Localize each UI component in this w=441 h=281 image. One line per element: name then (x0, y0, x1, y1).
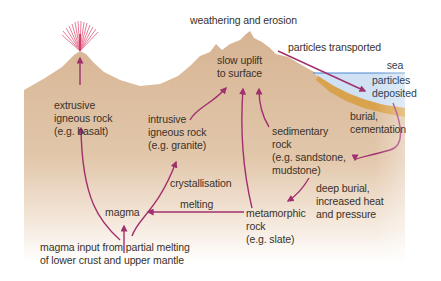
label-intrusive-igneous-rock: intrusive igneous rock (e.g. granite) (148, 113, 206, 152)
label-weathering-erosion: weathering and erosion (190, 14, 297, 27)
label-melting: melting (180, 198, 213, 211)
label-metamorphic-rock: metamorphic rock (e.g. slate) (246, 207, 306, 246)
label-magma-input: magma input from partial melting of lowe… (40, 241, 190, 267)
label-slow-uplift: slow uplift to surface (217, 54, 262, 80)
label-extrusive-igneous-rock: extrusive igneous rock (e.g. basalt) (54, 99, 112, 138)
label-burial-cementation: burial, cementation (350, 110, 406, 136)
label-crystallisation: crystallisation (170, 177, 232, 190)
label-particles-deposited: particles deposited (372, 74, 417, 100)
label-particles-transported: particles transported (288, 41, 381, 54)
label-sea: sea (387, 59, 404, 72)
label-deep-burial: deep burial, increased heat and pressure (316, 182, 383, 221)
label-magma: magma (105, 206, 140, 219)
label-sedimentary-rock: sedimentary rock (e.g. sandstone, mudsto… (272, 125, 346, 177)
